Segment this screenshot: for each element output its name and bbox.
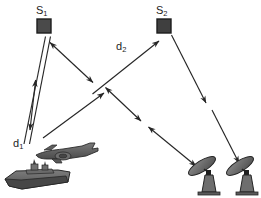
label-s1: S1 — [36, 5, 48, 16]
link-s1-to-crossing-bidirectional — [50, 43, 93, 83]
link-crossing-to-dish-left-upper — [106, 88, 142, 122]
label-s2: S2 — [156, 5, 168, 16]
satellite-s2 — [157, 19, 171, 33]
aircraft — [36, 143, 98, 163]
link-crossing-to-dish-left-lower — [149, 127, 197, 166]
radar-dish-left — [186, 153, 220, 195]
diagram-svg — [0, 0, 261, 198]
radar-dish-right — [224, 153, 258, 195]
link-s2-to-dish-right-tail — [212, 110, 239, 163]
label-d2: d2 — [116, 41, 126, 52]
link-d1-bidirectional — [30, 80, 36, 130]
label-d1: d1 — [13, 138, 23, 149]
ship — [5, 159, 70, 189]
satellite-nodes — [37, 19, 171, 33]
satellite-s1 — [37, 19, 51, 33]
link-aircraft-to-crossing — [43, 93, 104, 138]
link-s1-ship-return — [30, 37, 51, 145]
label-d1-subscript: 1 — [19, 142, 23, 151]
figure-canvas: S1 S2 d1 d2 — [0, 0, 261, 198]
label-d2-subscript: 2 — [122, 45, 126, 54]
link-s2-to-dish-right — [172, 35, 207, 103]
label-s1-subscript: 1 — [43, 9, 47, 18]
label-s2-subscript: 2 — [163, 9, 167, 18]
